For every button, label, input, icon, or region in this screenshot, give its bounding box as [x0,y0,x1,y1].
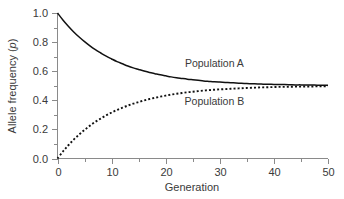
allele-frequency-chart: 0.00.20.40.60.81.0 01020304050 Generatio… [0,0,344,199]
x-tick-label: 0 [55,166,61,178]
x-tick-label: 10 [106,166,118,178]
svg-text:Allele frequency (p): Allele frequency (p) [6,39,18,134]
y-tick-label: 0.0 [33,153,48,165]
y-axis-title-close: ) [6,39,18,43]
y-tick-label: 0.2 [33,123,48,135]
x-tick-label: 30 [214,166,226,178]
x-axis-title: Generation [165,181,219,193]
series-annotation-population-a: Population A [185,57,244,69]
y-axis-title-text: Allele frequency ( [6,48,18,133]
y-tick-label: 0.8 [33,36,48,48]
y-axis-title: Allele frequency (p) [6,39,18,134]
y-tick-label: 0.4 [33,94,48,106]
x-tick-label: 50 [322,166,334,178]
y-axis-title-symbol: p [6,42,18,49]
x-tick-label: 20 [160,166,172,178]
series-annotation-population-b: Population B [185,95,245,107]
x-tick-label: 40 [268,166,280,178]
y-tick-label: 0.6 [33,65,48,77]
y-tick-label: 1.0 [33,7,48,19]
